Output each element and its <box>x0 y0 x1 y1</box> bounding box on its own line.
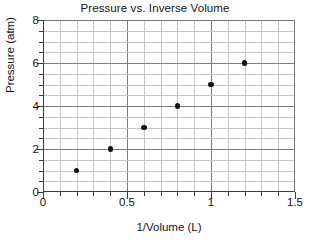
x-axis-tick <box>110 192 111 196</box>
gridline-horizontal <box>43 63 295 64</box>
gridline-horizontal <box>43 95 295 96</box>
gridline-horizontal <box>43 171 295 172</box>
gridline-horizontal <box>43 52 295 53</box>
x-axis-line <box>43 191 295 192</box>
gridline-horizontal <box>43 85 295 86</box>
y-tick-label: 2 <box>33 143 39 155</box>
gridline-horizontal <box>43 74 295 75</box>
data-point <box>141 125 146 130</box>
y-axis-label: Pressure (atm) <box>2 0 18 115</box>
x-tick-label: 0.5 <box>119 196 135 208</box>
x-axis-tick <box>93 192 94 196</box>
plot-frame-top <box>43 20 295 21</box>
gridline-horizontal <box>43 117 295 118</box>
data-point <box>208 82 213 87</box>
chart-figure: Pressure vs. Inverse Volume 00.511.5 024… <box>0 0 310 247</box>
x-axis-tick <box>161 192 162 196</box>
y-tick-label: 8 <box>33 14 39 26</box>
x-axis-tick <box>245 192 246 196</box>
x-tick-label: 1.5 <box>287 196 303 208</box>
plot-area <box>43 20 295 192</box>
x-axis-tick <box>194 192 195 196</box>
x-axis-tick <box>261 192 262 196</box>
y-tick-label: 6 <box>33 57 39 69</box>
gridline-horizontal <box>43 138 295 139</box>
gridline-horizontal <box>43 149 295 150</box>
x-axis-tick <box>144 192 145 196</box>
x-axis-tick <box>228 192 229 196</box>
x-axis-tick <box>278 192 279 196</box>
plot-frame-right <box>294 20 295 192</box>
x-axis-tick <box>177 192 178 196</box>
gridline-horizontal <box>43 42 295 43</box>
gridline-horizontal <box>43 181 295 182</box>
x-tick-label: 1 <box>208 196 214 208</box>
data-point <box>108 146 113 151</box>
y-tick-label: 0 <box>33 186 39 198</box>
x-tick-label: 0 <box>40 196 46 208</box>
data-point <box>175 103 180 108</box>
y-tick-label: 4 <box>33 100 39 112</box>
x-axis-label: 1/Volume (L) <box>43 221 295 233</box>
gridline-horizontal <box>43 160 295 161</box>
x-axis-tick <box>77 192 78 196</box>
gridline-horizontal <box>43 128 295 129</box>
x-axis-tick <box>60 192 61 196</box>
chart-title: Pressure vs. Inverse Volume <box>0 2 310 14</box>
data-point <box>242 60 247 65</box>
data-point <box>74 168 79 173</box>
gridline-horizontal <box>43 106 295 107</box>
y-axis-line <box>43 20 44 192</box>
gridline-horizontal <box>43 31 295 32</box>
